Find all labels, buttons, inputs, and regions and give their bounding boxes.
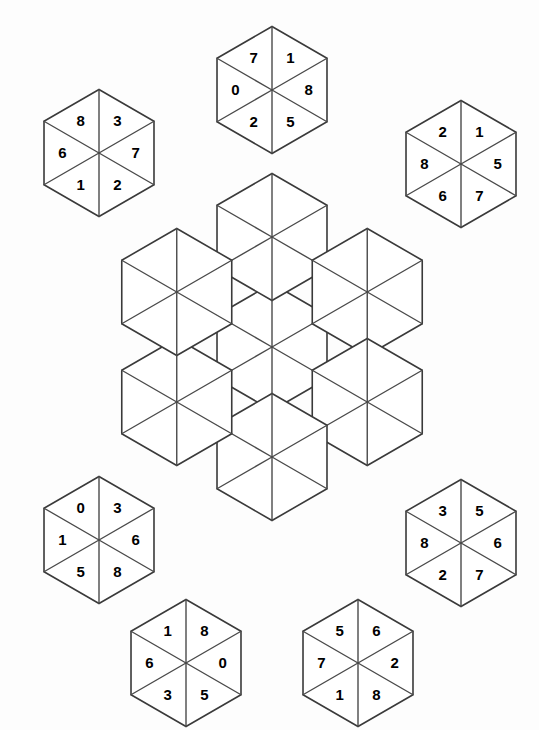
board-hex-3[interactable]: [312, 338, 422, 465]
piece-bottom-right-digit-upper_left: 5: [335, 622, 343, 639]
piece-lower-right-digit-lower_left: 8: [420, 534, 428, 551]
piece-lower-right-digit-lower_right: 7: [475, 566, 483, 583]
piece-lower-right-digit-bottom: 2: [438, 566, 446, 583]
piece-bottom-left-digit-bottom: 3: [163, 686, 171, 703]
piece-lower-left-digit-upper_right: 6: [131, 531, 139, 548]
piece-upper-left-digit-upper_left: 8: [76, 112, 84, 129]
piece-bottom-right-digit-upper_right: 2: [390, 654, 398, 671]
piece-upper-left-digit-upper_right: 7: [131, 144, 139, 161]
piece-lower-left-digit-bottom: 5: [76, 563, 84, 580]
piece-upper-right-digit-lower_left: 8: [420, 155, 428, 172]
board-hex-5[interactable]: [122, 338, 232, 465]
piece-upper-left-digit-bottom: 1: [76, 176, 84, 193]
piece-bottom-right-digit-bottom: 1: [335, 686, 343, 703]
piece-bottom-left-digit-upper_left: 1: [163, 622, 171, 639]
piece-bottom-left-digit-top: 8: [200, 622, 208, 639]
piece-bottom-left[interactable]: 805361: [131, 600, 241, 727]
piece-upper-left-digit-top: 3: [113, 112, 121, 129]
piece-bottom-right-digit-top: 6: [372, 622, 380, 639]
central-board[interactable]: [122, 174, 422, 521]
puzzle-canvas: 1852073721681576823685105672838053616281…: [0, 0, 539, 730]
piece-upper-right-digit-bottom: 6: [438, 187, 446, 204]
piece-upper-right-digit-upper_right: 5: [493, 155, 501, 172]
piece-upper-left-digit-lower_left: 6: [58, 144, 66, 161]
piece-upper-right-digit-lower_right: 7: [475, 187, 483, 204]
piece-bottom-right-digit-lower_right: 8: [372, 686, 380, 703]
piece-upper-right[interactable]: 157682: [406, 101, 516, 228]
board-hex-4[interactable]: [217, 393, 327, 520]
piece-top-digit-upper_right: 8: [304, 81, 312, 98]
piece-top-digit-bottom: 2: [249, 113, 257, 130]
piece-lower-left-digit-lower_right: 8: [113, 563, 121, 580]
piece-bottom-left-digit-upper_right: 0: [218, 654, 226, 671]
piece-upper-right-digit-top: 1: [475, 123, 483, 140]
board-hex-6[interactable]: [122, 229, 232, 356]
piece-top-digit-top: 1: [286, 49, 294, 66]
piece-lower-left-digit-top: 3: [113, 499, 121, 516]
piece-lower-right[interactable]: 567283: [406, 480, 516, 607]
piece-bottom-left-digit-lower_left: 6: [145, 654, 153, 671]
piece-top[interactable]: 185207: [217, 27, 327, 154]
puzzle-svg: 1852073721681576823685105672838053616281…: [0, 0, 539, 730]
piece-lower-left[interactable]: 368510: [44, 477, 154, 604]
board-hex-0[interactable]: [217, 284, 327, 411]
piece-bottom-right-digit-lower_left: 7: [317, 654, 325, 671]
piece-lower-right-digit-upper_left: 3: [438, 502, 446, 519]
piece-bottom-right[interactable]: 628175: [303, 600, 413, 727]
piece-upper-left-digit-lower_right: 2: [113, 176, 121, 193]
piece-lower-right-digit-top: 5: [475, 502, 483, 519]
piece-upper-left[interactable]: 372168: [44, 90, 154, 217]
piece-top-digit-lower_left: 0: [231, 81, 239, 98]
board-hex-2[interactable]: [312, 229, 422, 356]
piece-top-digit-lower_right: 5: [286, 113, 294, 130]
piece-lower-left-digit-lower_left: 1: [58, 531, 66, 548]
piece-lower-left-digit-upper_left: 0: [76, 499, 84, 516]
piece-lower-right-digit-upper_right: 6: [493, 534, 501, 551]
piece-bottom-left-digit-lower_right: 5: [200, 686, 208, 703]
piece-upper-right-digit-upper_left: 2: [438, 123, 446, 140]
piece-top-digit-upper_left: 7: [249, 49, 257, 66]
board-hex-1[interactable]: [217, 174, 327, 301]
